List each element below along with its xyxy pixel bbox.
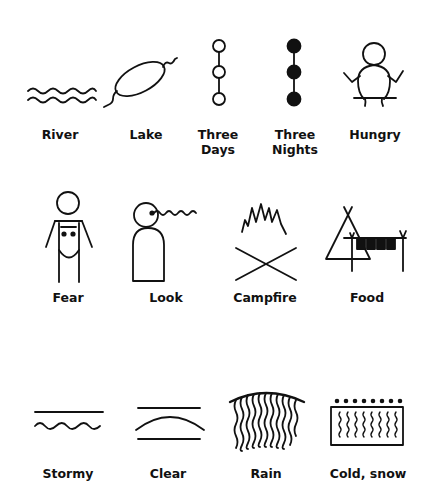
stormy-label: Stormy bbox=[23, 466, 113, 481]
rain-icon bbox=[228, 390, 306, 452]
three-days-label-line1: Three bbox=[198, 127, 239, 142]
clear-label: Clear bbox=[123, 466, 213, 481]
fear-label: Fear bbox=[23, 290, 113, 305]
three-nights-label-line2: Nights bbox=[272, 142, 318, 157]
three-nights-label-line1: Three bbox=[275, 127, 316, 142]
three-nights-label: Three Nights bbox=[250, 127, 340, 157]
hungry-label: Hungry bbox=[330, 127, 420, 142]
clear-icon bbox=[134, 406, 206, 444]
food-icon bbox=[324, 205, 410, 275]
food-label: Food bbox=[322, 290, 412, 305]
river-label: River bbox=[15, 127, 105, 142]
rain-label: Rain bbox=[221, 466, 311, 481]
campfire-label: Campfire bbox=[220, 290, 310, 305]
stormy-icon bbox=[33, 410, 105, 432]
river-icon bbox=[26, 86, 96, 106]
campfire-icon bbox=[234, 202, 300, 282]
hungry-icon bbox=[338, 42, 408, 110]
cold-snow-icon bbox=[329, 399, 405, 447]
three-nights-icon bbox=[283, 39, 305, 113]
lake-icon bbox=[100, 48, 178, 110]
look-icon bbox=[132, 203, 212, 283]
three-days-label-line2: Days bbox=[201, 142, 235, 157]
cold-snow-label: Cold, snow bbox=[323, 466, 413, 481]
fear-icon bbox=[42, 192, 98, 284]
three-days-icon bbox=[208, 39, 230, 113]
look-label: Look bbox=[121, 290, 211, 305]
